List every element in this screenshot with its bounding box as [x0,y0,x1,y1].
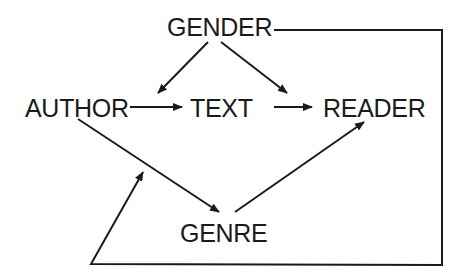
node-reader: READER [323,96,425,121]
edge-genre-reader [235,122,364,212]
edge-gender-reader [221,42,287,93]
edge-gender-author [158,42,208,93]
diagram-canvas: GENDER AUTHOR TEXT READER GENRE [0,0,464,278]
node-genre: GENRE [180,221,267,246]
node-text: TEXT [190,96,253,121]
edge-author-genre [78,119,219,212]
node-gender: GENDER [167,15,272,40]
node-author: AUTHOR [25,96,129,121]
